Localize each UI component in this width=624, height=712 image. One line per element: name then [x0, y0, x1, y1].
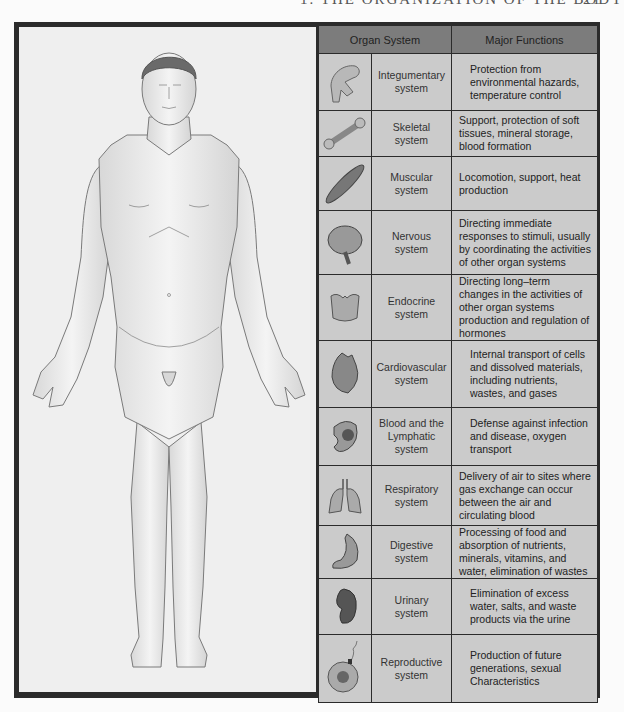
table-row: Endocrinesystem Directing long–term chan… [319, 275, 598, 341]
system-functions: Directing long–term changes in the activ… [452, 275, 598, 341]
brain-icon [325, 220, 365, 266]
system-functions: Support, protection of soft tissues, min… [452, 111, 598, 157]
system-name-suffix: system [372, 669, 451, 682]
system-name-suffix: system [372, 184, 451, 197]
table-row: Blood and theLymphatic system Defense ag… [319, 408, 598, 466]
table-header-row: Organ System Major Functions [319, 26, 598, 54]
table-row: Nervoussystem Directing immediate respon… [319, 211, 598, 275]
table-row: Cardiovascularsystem Internal transport … [319, 341, 598, 408]
system-name: Endocrine [372, 295, 451, 308]
system-name: Muscular [372, 171, 451, 184]
heart-icon [328, 351, 362, 397]
system-functions: Processing of food and absorption of nut… [452, 526, 598, 579]
human-body-icon [19, 27, 316, 692]
system-name-suffix: system [372, 607, 451, 620]
system-name-suffix: system [372, 308, 451, 321]
system-name-suffix: Lymphatic system [372, 430, 451, 456]
system-name-suffix: system [372, 496, 451, 509]
stomach-icon [327, 532, 363, 572]
organ-systems-table: Organ System Major Functions Integumenta… [318, 25, 598, 693]
table-row: Integumentarysystem Protection from envi… [319, 54, 598, 111]
system-functions: Delivery of air to sites where gas excha… [452, 466, 598, 526]
system-name: Urinary [372, 594, 451, 607]
header-major-functions: Major Functions [452, 26, 598, 54]
system-name: Reproductive [372, 656, 451, 669]
system-name: Digestive [372, 539, 451, 552]
system-name: Integumentary [372, 69, 451, 82]
system-name: Nervous [372, 230, 451, 243]
system-name-suffix: system [372, 552, 451, 565]
lungs-icon [325, 475, 365, 517]
spleen-icon [328, 417, 362, 457]
human-body-figure [19, 27, 316, 692]
system-functions: Elimination of excess water, salts, and … [452, 579, 598, 635]
table-row: Urinarysystem Elimination of excess wate… [319, 579, 598, 635]
table-row: Skeletalsystem Support, protection of so… [319, 111, 598, 157]
system-name: Blood and the [372, 417, 451, 430]
muscle-icon [322, 161, 368, 207]
bone-icon [323, 116, 367, 152]
kidney-icon [330, 587, 360, 627]
system-functions: Defense against infection and disease, o… [452, 408, 598, 466]
hand-skin-icon [325, 58, 365, 106]
header-organ-system: Organ System [319, 26, 452, 54]
system-functions: Internal transport of cells and dissolve… [452, 341, 598, 408]
egg-sperm-icon [325, 641, 365, 697]
system-name: Skeletal [372, 121, 451, 134]
system-functions: Directing immediate responses to stimuli… [452, 211, 598, 275]
system-functions: Protection from environmental hazards, t… [452, 54, 598, 111]
system-name-suffix: system [372, 243, 451, 256]
table-row: Digestivesystem Processing of food and a… [319, 526, 598, 579]
system-name-suffix: system [372, 134, 451, 147]
system-functions: Production of future generations, sexual… [452, 635, 598, 703]
thyroid-icon [327, 290, 363, 326]
table-row: Respiratorysystem Delivery of air to sit… [319, 466, 598, 526]
system-name-suffix: system [372, 82, 451, 95]
system-name: Respiratory [372, 483, 451, 496]
table-row: Reproductivesystem Production of future … [319, 635, 598, 703]
running-head-title: 1. THE ORGANIZATION OF THE BODY [300, 0, 624, 7]
system-name-suffix: system [372, 374, 451, 387]
system-name: Cardiovascular [372, 361, 451, 374]
table-row: Muscularsystem Locomotion, support, heat… [319, 157, 598, 211]
running-head: 1. THE ORGANIZATION OF THE BODY 21 [300, 0, 610, 8]
system-functions: Locomotion, support, heat production [452, 157, 598, 211]
page-number: 21 [583, 0, 602, 8]
